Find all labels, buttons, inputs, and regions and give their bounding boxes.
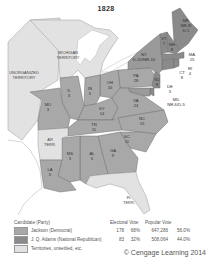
- svg-text:28: 28: [134, 78, 139, 83]
- electoral-vote: 178: [110, 228, 124, 233]
- popular-pct: 44.0%: [168, 237, 190, 242]
- state-ri: [174, 59, 179, 68]
- swatch-territories: [14, 245, 28, 253]
- electoral-pct: 32%: [124, 237, 140, 242]
- svg-text:TERRITORY: TERRITORY: [57, 55, 80, 60]
- svg-text:15: 15: [140, 121, 145, 126]
- svg-text:8: 8: [181, 75, 184, 80]
- header-electoral: Electoral Vote: [110, 220, 140, 225]
- svg-text:D-1: D-1: [183, 28, 190, 33]
- swatch-adams: [14, 236, 28, 244]
- svg-text:D-20/NR-16: D-20/NR-16: [133, 57, 156, 62]
- popular-vote: 508,064: [140, 237, 168, 242]
- election-map: UNORGANIZED TERRITORY MICHIGAN TERRITORY…: [0, 0, 212, 215]
- gulf-coastline: [8, 140, 42, 215]
- svg-text:11: 11: [92, 127, 97, 132]
- svg-text:4: 4: [189, 71, 192, 76]
- header-popular: Popular Vote: [140, 220, 195, 225]
- copyright: © Cengage Learning 2014: [124, 249, 206, 256]
- swatch-jackson: [14, 227, 28, 235]
- svg-text:14: 14: [100, 111, 105, 116]
- electoral-pct: 68%: [124, 228, 140, 233]
- svg-text:11: 11: [125, 139, 130, 144]
- legend-row-adams: J. Q. Adams (National Republican) 83 32%…: [14, 235, 212, 244]
- state-de: [150, 88, 154, 96]
- state-ct: [162, 59, 174, 70]
- svg-text:TERRITORY: TERRITORY: [13, 75, 36, 80]
- svg-text:TERR.: TERR.: [123, 200, 135, 205]
- svg-text:3: 3: [169, 89, 172, 94]
- candidate-name: Jackson (Democrat): [31, 228, 72, 233]
- candidate-name: J. Q. Adams (National Republican): [31, 237, 101, 242]
- popular-pct: 56.0%: [168, 228, 190, 233]
- header-candidate: Candidate (Party): [14, 220, 110, 225]
- svg-text:24: 24: [134, 103, 139, 108]
- candidate-name: Territories, unsettled, etc.: [31, 246, 82, 251]
- florida-territory: [86, 172, 150, 214]
- electoral-vote: 83: [110, 237, 124, 242]
- legend-header: Candidate (Party) Electoral Vote Popular…: [14, 218, 212, 226]
- svg-text:16: 16: [108, 85, 113, 90]
- legend-row-jackson: Jackson (Democrat) 178 68% 647,286 56.0%: [14, 226, 212, 235]
- svg-text:TERR.: TERR.: [44, 142, 56, 147]
- svg-text:15: 15: [190, 57, 195, 62]
- svg-text:NR-6/D-5: NR-6/D-5: [167, 102, 185, 107]
- legend: Candidate (Party) Electoral Vote Popular…: [14, 218, 212, 253]
- popular-vote: 647,286: [140, 228, 168, 233]
